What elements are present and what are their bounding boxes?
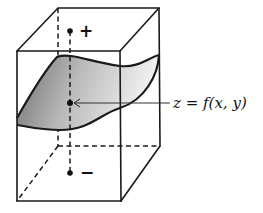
front-right-edge [120,51,121,201]
positive-point [67,28,73,34]
right-bottom-edge [121,146,160,201]
back-diagonal-edge [17,146,58,201]
negative-point [67,170,73,176]
positive-sign: + [79,21,93,41]
surface-equation-label: z = f(x, y) [172,94,247,112]
surface-in-box-diagram: + − z = f(x, y) [0,0,263,213]
surface-patch [17,55,159,130]
negative-sign: − [80,162,94,182]
surface-point [67,100,73,106]
back-right-edge [159,8,160,146]
